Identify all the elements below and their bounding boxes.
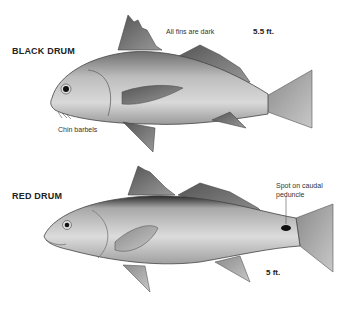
spot-caudal-note-line2: peduncle	[276, 191, 304, 198]
red-drum-size: 5 ft.	[266, 268, 280, 277]
chin-barbels-note: Chin barbels	[58, 126, 97, 133]
red-drum-title: RED DRUM	[12, 191, 62, 201]
all-fins-dark-note: All fins are dark	[166, 28, 214, 35]
black-drum-title: BLACK DRUM	[12, 46, 75, 56]
black-drum-size: 5.5 ft.	[253, 27, 274, 36]
spot-caudal-note-line1: Spot on caudal	[276, 182, 323, 189]
